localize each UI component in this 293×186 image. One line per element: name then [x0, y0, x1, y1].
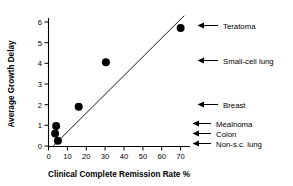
annotation-mealnoma: Mealnoma: [193, 120, 254, 129]
annotation-label-breast: Breast: [223, 101, 246, 110]
x-tick-label-40: 40: [120, 152, 128, 161]
annotation-small-cell-lung: Small-cell lung: [198, 57, 274, 66]
data-point-breast: [75, 103, 83, 111]
annotation-label-teratoma: Teratoma: [223, 22, 256, 31]
x-tick-label-50: 50: [139, 152, 147, 161]
scatter-plot: 6 5 4 3 2 1 0 Average Growth Delay 0 10: [0, 0, 293, 186]
x-tick-label-30: 30: [101, 152, 109, 161]
annotation-label-small-cell-lung: Small-cell lung: [223, 57, 274, 66]
y-tick-label-3: 3: [38, 80, 42, 89]
data-point-non-sc-lung: [54, 137, 62, 145]
chart-figure: 6 5 4 3 2 1 0 Average Growth Delay 0 10: [0, 0, 293, 186]
x-tick-label-20: 20: [82, 152, 90, 161]
regression-line: [53, 16, 184, 146]
y-tick-label-5: 5: [38, 39, 42, 48]
y-tick-label-4: 4: [38, 59, 42, 68]
data-point-colon: [51, 130, 59, 138]
x-tick-label-0: 0: [46, 152, 50, 161]
y-axis-group: 6 5 4 3 2 1 0 Average Growth Delay: [7, 18, 49, 151]
x-axis-title: Clinical Complete Remission Rate %: [48, 170, 191, 179]
annotation-colon: Colon: [193, 130, 237, 139]
data-point-teratoma: [177, 24, 185, 32]
annotation-label-non-sc-lung: Non-s.c. lung: [216, 140, 262, 149]
annotation-label-mealnoma: Mealnoma: [216, 120, 253, 129]
data-point-mealnoma: [52, 122, 60, 130]
y-axis-ticks: [45, 22, 49, 146]
y-tick-label-6: 6: [38, 18, 42, 27]
y-tick-label-0: 0: [38, 142, 42, 151]
x-axis-ticks: [49, 147, 181, 151]
x-axis-group: 0 10 20 30 40 50 60 70 Clinical Complete…: [46, 147, 190, 180]
y-tick-label-2: 2: [38, 101, 42, 110]
y-axis-title: Average Growth Delay: [7, 40, 16, 128]
x-tick-label-60: 60: [157, 152, 165, 161]
annotation-label-colon: Colon: [216, 130, 236, 139]
y-tick-label-1: 1: [38, 121, 42, 130]
annotation-teratoma: Teratoma: [198, 22, 257, 31]
x-tick-label-70: 70: [176, 152, 184, 161]
data-points: [51, 24, 185, 145]
data-point-small-cell-lung: [102, 58, 110, 66]
annotation-non-sc-lung: Non-s.c. lung: [193, 140, 262, 149]
annotation-breast: Breast: [198, 101, 247, 110]
x-tick-label-10: 10: [63, 152, 71, 161]
